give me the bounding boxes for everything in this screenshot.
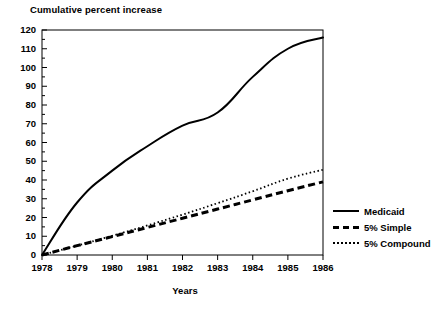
x-tick-label: 1983 xyxy=(201,263,235,273)
y-tick-label: 20 xyxy=(8,213,36,223)
legend-line-sample-dotted xyxy=(333,237,359,249)
series-line-5-compound xyxy=(42,170,323,255)
plot-frame xyxy=(42,30,323,255)
y-tick-label: 120 xyxy=(8,25,36,35)
y-tick-label: 10 xyxy=(8,231,36,241)
chart-figure: Cumulative percent increase 010203040506… xyxy=(0,0,441,310)
axes-frame xyxy=(42,30,323,255)
chart-title: Cumulative percent increase xyxy=(30,4,162,15)
y-tick-label: 70 xyxy=(8,119,36,129)
data-series xyxy=(42,38,323,256)
y-tick-label: 0 xyxy=(8,250,36,260)
legend-line-sample-solid xyxy=(333,205,359,217)
legend-item: Medicaid xyxy=(333,203,441,219)
x-tick-label: 1982 xyxy=(166,263,200,273)
x-tick-label: 1984 xyxy=(236,263,270,273)
y-tick-label: 30 xyxy=(8,194,36,204)
legend-label: 5% Simple xyxy=(364,222,412,233)
legend-label: Medicaid xyxy=(364,206,405,217)
legend-item: 5% Simple xyxy=(333,219,441,235)
legend-line-sample-dashed xyxy=(333,221,359,233)
x-tick-label: 1986 xyxy=(306,263,340,273)
x-tick-label: 1980 xyxy=(95,263,129,273)
y-tick-label: 50 xyxy=(8,156,36,166)
y-tick-label: 100 xyxy=(8,63,36,73)
series-line-5-simple xyxy=(42,182,323,255)
axis-ticks xyxy=(42,30,323,260)
x-tick-label: 1981 xyxy=(130,263,164,273)
x-tick-label: 1979 xyxy=(60,263,94,273)
x-tick-label: 1978 xyxy=(25,263,59,273)
y-tick-label: 90 xyxy=(8,81,36,91)
legend-item: 5% Compound xyxy=(333,235,441,251)
legend-label: 5% Compound xyxy=(364,238,431,249)
x-tick-label: 1985 xyxy=(271,263,305,273)
y-tick-label: 80 xyxy=(8,100,36,110)
y-tick-label: 110 xyxy=(8,44,36,54)
y-tick-label: 40 xyxy=(8,175,36,185)
y-tick-label: 60 xyxy=(8,138,36,148)
chart-legend: Medicaid5% Simple5% Compound xyxy=(333,203,441,251)
x-axis-label: Years xyxy=(135,285,235,296)
series-line-medicaid xyxy=(42,38,323,256)
